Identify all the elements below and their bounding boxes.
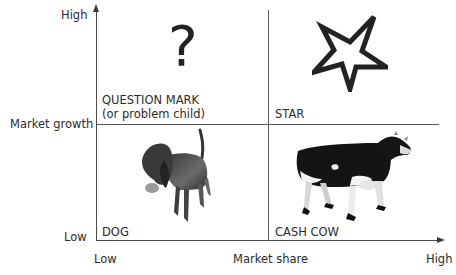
horizontal-divider	[96, 124, 439, 125]
x-axis-high-label: High	[426, 252, 452, 266]
question-mark-title: QUESTION MARK	[102, 93, 199, 107]
star-icon	[312, 14, 388, 92]
y-axis-high-label: High	[61, 8, 87, 22]
y-axis	[96, 10, 97, 241]
dog-title: DOG	[102, 225, 129, 239]
vertical-divider	[268, 10, 269, 241]
y-axis-title: Market growth	[10, 117, 93, 131]
question-mark-icon: ?	[168, 14, 198, 78]
x-axis-arrow-icon	[437, 237, 445, 243]
dog-image	[136, 128, 212, 224]
y-axis-arrow-icon	[93, 4, 99, 12]
y-axis-low-label: Low	[64, 230, 87, 244]
cow-image	[292, 131, 414, 223]
x-axis-low-label: Low	[94, 252, 117, 266]
star-title: STAR	[275, 107, 304, 121]
cash-cow-title: CASH COW	[275, 225, 339, 239]
x-axis-title: Market share	[233, 252, 308, 266]
question-mark-subtitle: (or problem child)	[102, 107, 205, 121]
